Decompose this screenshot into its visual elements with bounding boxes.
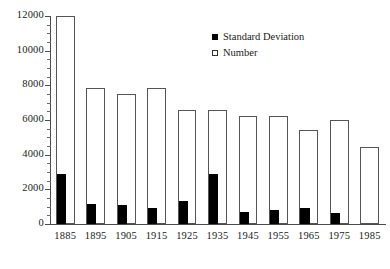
x-tick-label: 1895 (80, 230, 110, 241)
open-square-icon (212, 50, 218, 56)
y-tick-minor (47, 111, 51, 112)
x-tick-label: 1925 (172, 230, 202, 241)
bar-group (147, 16, 166, 224)
y-tick-minor (47, 198, 51, 199)
x-tick-label: 1975 (324, 230, 354, 241)
y-tick-label: 0 (39, 217, 44, 228)
y-tick-minor (47, 207, 51, 208)
x-tick-label: 1905 (111, 230, 141, 241)
y-tick-major (45, 16, 51, 17)
bar-standard-deviation (240, 212, 249, 224)
bar-standard-deviation (270, 210, 279, 224)
bar-standard-deviation (300, 208, 309, 224)
y-tick-minor (47, 137, 51, 138)
y-tick-minor (47, 77, 51, 78)
y-tick-label: 12000 (17, 9, 44, 20)
y-tick-minor (47, 215, 51, 216)
y-tick-label: 10000 (17, 44, 44, 55)
y-tick-minor (47, 68, 51, 69)
bar-group (178, 16, 197, 224)
legend-label-standard-deviation: Standard Deviation (223, 30, 304, 43)
y-tick-minor (47, 42, 51, 43)
y-tick-minor (47, 25, 51, 26)
y-tick-minor (47, 59, 51, 60)
x-tick-label: 1945 (233, 230, 263, 241)
bar-number (239, 116, 258, 224)
bar-standard-deviation (87, 204, 96, 224)
x-tick-label: 1915 (141, 230, 171, 241)
x-tick-label: 1955 (263, 230, 293, 241)
bar-group (56, 16, 75, 224)
bar-standard-deviation (118, 205, 127, 224)
y-tick-minor (47, 163, 51, 164)
x-tick-label: 1935 (202, 230, 232, 241)
bar-chart: 020004000600080001000012000 188518951905… (0, 0, 390, 269)
y-tick-minor (47, 94, 51, 95)
y-tick-major (45, 224, 51, 225)
y-tick-minor (47, 181, 51, 182)
bar-number (360, 147, 379, 224)
y-tick-label: 6000 (22, 113, 44, 124)
bar-standard-deviation (57, 174, 66, 224)
y-tick-major (45, 120, 51, 121)
bar-number (269, 116, 288, 224)
y-tick-minor (47, 172, 51, 173)
bar-group (86, 16, 105, 224)
bar-group (117, 16, 136, 224)
y-axis-labels: 020004000600080001000012000 (0, 16, 44, 225)
legend-item-standard-deviation: Standard Deviation (212, 30, 304, 43)
y-tick-label: 2000 (22, 182, 44, 193)
x-axis-labels: 1885189519051915192519351945195519651975… (50, 230, 385, 250)
bar-number (330, 120, 349, 224)
bar-standard-deviation (148, 208, 157, 224)
legend-item-number: Number (212, 46, 304, 59)
legend: Standard Deviation Number (212, 30, 304, 62)
legend-label-number: Number (223, 46, 257, 59)
y-tick-minor (47, 129, 51, 130)
y-tick-label: 4000 (22, 148, 44, 159)
y-tick-minor (47, 146, 51, 147)
bar-standard-deviation (209, 174, 218, 224)
y-tick-label: 8000 (22, 78, 44, 89)
y-tick-major (45, 51, 51, 52)
x-axis-line (50, 224, 386, 225)
bar-standard-deviation (331, 213, 340, 224)
x-tick-label: 1985 (355, 230, 385, 241)
y-tick-minor (47, 33, 51, 34)
y-tick-major (45, 189, 51, 190)
y-axis-ticks (50, 16, 51, 224)
filled-square-icon (212, 34, 218, 40)
bar-group (330, 16, 349, 224)
bar-standard-deviation (179, 201, 188, 224)
y-tick-major (45, 85, 51, 86)
x-tick-label: 1885 (50, 230, 80, 241)
bar-group (360, 16, 379, 224)
y-tick-major (45, 155, 51, 156)
y-tick-minor (47, 103, 51, 104)
x-tick-label: 1965 (294, 230, 324, 241)
bar-number (147, 88, 166, 224)
